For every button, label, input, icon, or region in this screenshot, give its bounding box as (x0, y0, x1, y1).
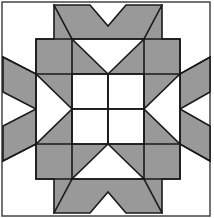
quilt-block-figure (0, 0, 214, 218)
center-square-top-right (108, 74, 144, 109)
center-square-bottom-left (72, 109, 108, 144)
center-square-bottom-right (108, 109, 144, 144)
quilt-svg-canvas (0, 0, 214, 218)
center-square-top-left (72, 74, 108, 109)
